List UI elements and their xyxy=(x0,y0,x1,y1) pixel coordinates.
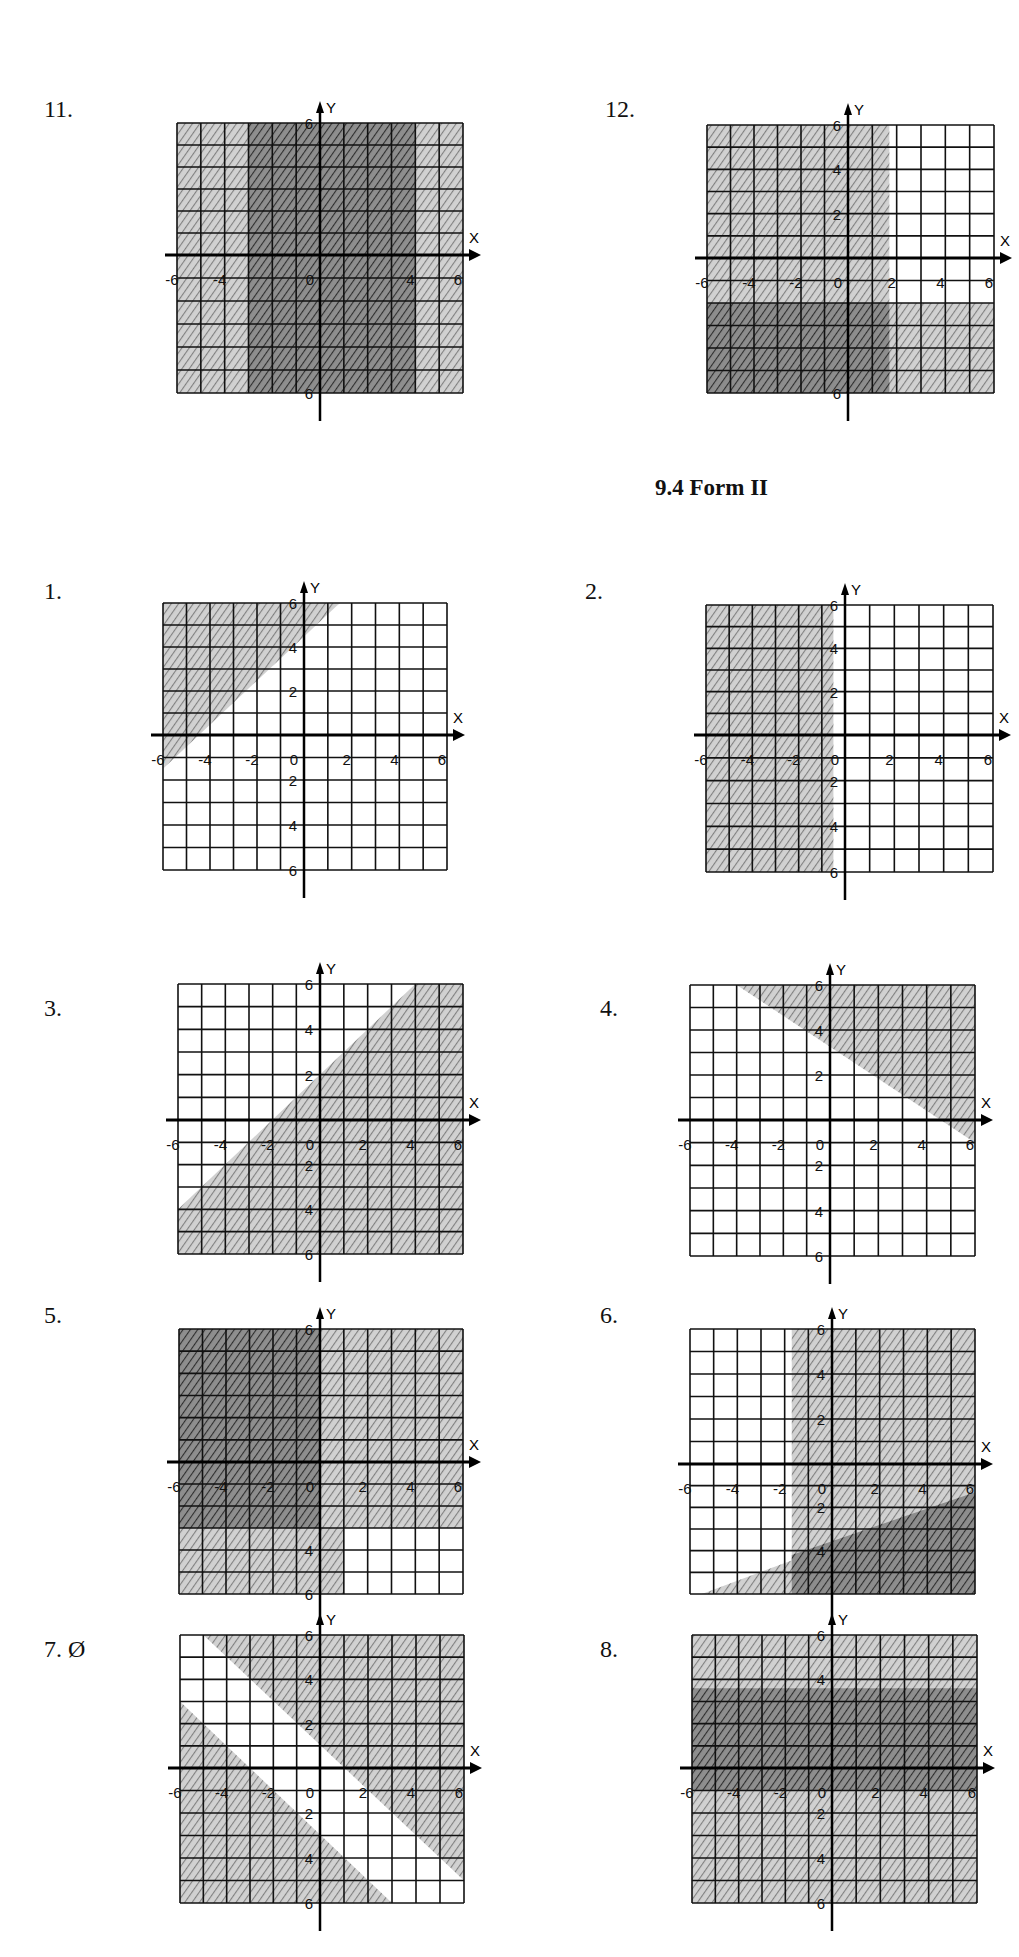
svg-text:2: 2 xyxy=(817,1499,825,1516)
x-arrow-icon xyxy=(470,1762,482,1774)
svg-text:2: 2 xyxy=(358,1136,366,1153)
svg-text:-4: -4 xyxy=(742,274,755,291)
svg-text:6: 6 xyxy=(305,976,313,993)
y-arrow-icon xyxy=(841,583,849,595)
svg-text:2: 2 xyxy=(870,1480,878,1497)
graph-6: XY-6-4-2024664224 xyxy=(650,1289,1015,1634)
y-arrow-icon xyxy=(828,1307,836,1319)
graph-12: XY-6-4-202466426 xyxy=(667,85,1019,433)
graph-3: XY-6-4-20246642246 xyxy=(138,944,503,1294)
svg-text:-4: -4 xyxy=(214,1136,227,1153)
y-axis-label: Y xyxy=(851,581,861,598)
svg-text:4: 4 xyxy=(305,1542,313,1559)
svg-text:-4: -4 xyxy=(215,1784,228,1801)
y-axis-label: Y xyxy=(838,1305,848,1322)
y-axis-label: Y xyxy=(836,961,846,978)
svg-text:6: 6 xyxy=(830,864,838,881)
problem-number: 12. xyxy=(605,96,635,123)
svg-text:4: 4 xyxy=(817,1850,825,1867)
svg-text:-2: -2 xyxy=(773,1480,786,1497)
svg-text:2: 2 xyxy=(871,1784,879,1801)
svg-text:-2: -2 xyxy=(774,1784,787,1801)
svg-text:-6: -6 xyxy=(678,1136,691,1153)
svg-text:2: 2 xyxy=(887,274,895,291)
svg-text:4: 4 xyxy=(289,817,297,834)
svg-text:4: 4 xyxy=(390,751,398,768)
svg-text:2: 2 xyxy=(342,751,350,768)
svg-text:6: 6 xyxy=(966,1480,974,1497)
svg-text:6: 6 xyxy=(815,977,823,994)
y-axis-label: Y xyxy=(838,1611,848,1628)
svg-text:0: 0 xyxy=(816,1136,824,1153)
x-arrow-icon xyxy=(453,729,465,741)
x-arrow-icon xyxy=(981,1458,993,1470)
x-axis-label: X xyxy=(470,1742,480,1759)
svg-text:6: 6 xyxy=(830,597,838,614)
svg-text:-6: -6 xyxy=(166,1136,179,1153)
svg-text:2: 2 xyxy=(305,1716,313,1733)
x-axis-label: X xyxy=(999,709,1009,726)
svg-text:6: 6 xyxy=(833,385,841,402)
problem-number: 11. xyxy=(44,96,73,123)
svg-text:0: 0 xyxy=(290,751,298,768)
svg-text:2: 2 xyxy=(289,683,297,700)
svg-text:6: 6 xyxy=(305,1627,313,1644)
x-arrow-icon xyxy=(1000,252,1012,264)
svg-text:-6: -6 xyxy=(167,1478,180,1495)
svg-text:2: 2 xyxy=(305,1157,313,1174)
svg-text:4: 4 xyxy=(305,1201,313,1218)
svg-text:0: 0 xyxy=(306,1478,314,1495)
svg-text:-2: -2 xyxy=(261,1136,274,1153)
svg-text:6: 6 xyxy=(289,595,297,612)
svg-text:0: 0 xyxy=(818,1784,826,1801)
svg-text:-6: -6 xyxy=(168,1784,181,1801)
x-arrow-icon xyxy=(469,249,481,261)
y-axis-label: Y xyxy=(310,579,320,596)
svg-text:-6: -6 xyxy=(694,751,707,768)
svg-text:-4: -4 xyxy=(725,1136,738,1153)
y-axis-label: Y xyxy=(854,101,864,118)
x-arrow-icon xyxy=(983,1762,995,1774)
svg-text:6: 6 xyxy=(966,1136,974,1153)
svg-text:4: 4 xyxy=(919,1784,927,1801)
svg-text:6: 6 xyxy=(984,751,992,768)
y-arrow-icon xyxy=(828,1613,836,1625)
svg-text:6: 6 xyxy=(454,1136,462,1153)
x-arrow-icon xyxy=(469,1114,481,1126)
graph-11: XY-6-404666 xyxy=(137,83,503,433)
svg-text:4: 4 xyxy=(407,1784,415,1801)
y-arrow-icon xyxy=(316,962,324,974)
svg-text:-6: -6 xyxy=(678,1480,691,1497)
x-axis-label: X xyxy=(469,1436,479,1453)
svg-text:6: 6 xyxy=(815,1248,823,1265)
svg-text:2: 2 xyxy=(830,684,838,701)
svg-text:0: 0 xyxy=(306,1784,314,1801)
svg-text:-6: -6 xyxy=(695,274,708,291)
svg-text:4: 4 xyxy=(406,1136,414,1153)
section-heading: 9.4 Form II xyxy=(655,475,768,501)
svg-text:2: 2 xyxy=(289,772,297,789)
shaded-region xyxy=(163,603,340,769)
svg-text:2: 2 xyxy=(830,773,838,790)
svg-text:6: 6 xyxy=(817,1627,825,1644)
svg-text:4: 4 xyxy=(817,1543,825,1560)
svg-text:-2: -2 xyxy=(772,1136,785,1153)
svg-text:-2: -2 xyxy=(789,274,802,291)
svg-text:-2: -2 xyxy=(245,751,258,768)
svg-text:-4: -4 xyxy=(726,1480,739,1497)
svg-text:0: 0 xyxy=(818,1480,826,1497)
svg-text:2: 2 xyxy=(305,1067,313,1084)
svg-text:6: 6 xyxy=(968,1784,976,1801)
svg-text:4: 4 xyxy=(406,271,414,288)
y-arrow-icon xyxy=(844,103,852,115)
svg-text:4: 4 xyxy=(833,161,841,178)
svg-text:-4: -4 xyxy=(727,1784,740,1801)
svg-text:-6: -6 xyxy=(165,271,178,288)
svg-text:-2: -2 xyxy=(787,751,800,768)
x-axis-label: X xyxy=(469,1094,479,1111)
problem-number: 7. Ø xyxy=(44,1636,85,1663)
svg-text:6: 6 xyxy=(305,1246,313,1263)
svg-text:0: 0 xyxy=(306,1136,314,1153)
y-arrow-icon xyxy=(316,101,324,113)
x-axis-label: X xyxy=(1000,232,1010,249)
